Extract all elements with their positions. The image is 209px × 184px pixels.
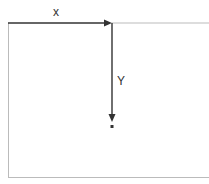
target-point xyxy=(111,125,114,128)
x-arrowhead-icon xyxy=(104,20,112,27)
x-label: x xyxy=(53,6,59,18)
coordinate-diagram xyxy=(0,0,209,184)
y-arrowhead-icon xyxy=(109,114,116,122)
y-label: Y xyxy=(117,75,125,87)
